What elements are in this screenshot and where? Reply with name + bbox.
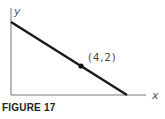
point-marker bbox=[78, 63, 83, 68]
x-axis-label: x bbox=[151, 89, 159, 100]
figure-caption: FIGURE 17 bbox=[2, 102, 55, 113]
figure-diagram: y x (4,2) bbox=[0, 0, 165, 100]
point-label: (4,2) bbox=[88, 52, 117, 63]
y-axis-label: y bbox=[13, 5, 21, 18]
